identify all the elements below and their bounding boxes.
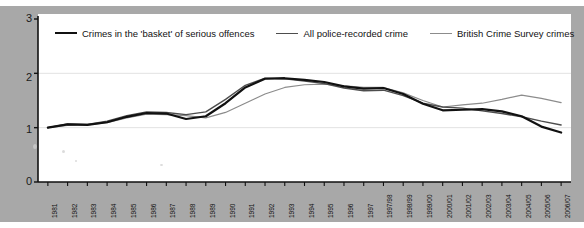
chart-figure: 3 2 1 0 19811982198319841985198619871988… — [0, 0, 584, 228]
x-tick-label: 1997 — [367, 204, 374, 218]
x-tick-label: 2004/05 — [525, 195, 532, 219]
x-tick-label: 2005/06 — [544, 195, 551, 219]
x-tick-label: 1988 — [189, 204, 196, 218]
x-tick-label: 1998/99 — [406, 195, 413, 219]
x-tick-label: 2001/02 — [465, 195, 472, 219]
y-tick-label-3: 3 — [18, 12, 32, 24]
y-tick-label-1: 1 — [18, 123, 32, 135]
x-tick-label: 2002/03 — [485, 195, 492, 219]
legend-label-police: All police-recorded crime — [303, 28, 408, 39]
legend-label-basket: Crimes in the 'basket' of serious offenc… — [82, 28, 254, 39]
x-tick-label: 1993 — [288, 204, 295, 218]
legend-item-police: All police-recorded crime — [276, 28, 408, 39]
x-tick-label: 1985 — [130, 204, 137, 218]
x-tick-label: 1991 — [248, 204, 255, 218]
legend-item-bcs: British Crime Survey crimes — [430, 28, 574, 39]
legend-item-basket: Crimes in the 'basket' of serious offenc… — [55, 28, 254, 39]
x-tick-label: 2003/04 — [505, 195, 512, 219]
legend-swatch-bcs — [430, 33, 452, 34]
x-tick-label: 1995 — [327, 204, 334, 218]
y-tick-label-2: 2 — [18, 71, 32, 83]
x-tick-label: 1983 — [90, 204, 97, 218]
legend-label-bcs: British Crime Survey crimes — [457, 28, 574, 39]
data-series — [48, 78, 561, 132]
legend-swatch-basket — [55, 32, 77, 34]
x-tick-label: 1987 — [169, 204, 176, 218]
x-tick-label: 2006/07 — [564, 195, 571, 219]
x-tick-label: 1990 — [229, 204, 236, 218]
x-tick-label: 1996 — [347, 204, 354, 218]
x-tick-label: 1989 — [209, 204, 216, 218]
x-tick-label: 1992 — [268, 204, 275, 218]
y-tick-label-0: 0 — [18, 175, 32, 187]
x-tick-label: 1986 — [150, 204, 157, 218]
x-tick-label: 1994 — [308, 204, 315, 218]
x-tick-label: 1997/98 — [386, 195, 393, 219]
legend-swatch-police — [276, 33, 298, 34]
x-tick-label: 2000/01 — [446, 195, 453, 219]
x-tick-label: 1981 — [51, 204, 58, 218]
x-tick-label: 1984 — [110, 204, 117, 218]
chart-legend: Crimes in the 'basket' of serious offenc… — [55, 25, 555, 41]
x-tick-label: 1982 — [71, 204, 78, 218]
x-tick-label: 1999/00 — [426, 195, 433, 219]
